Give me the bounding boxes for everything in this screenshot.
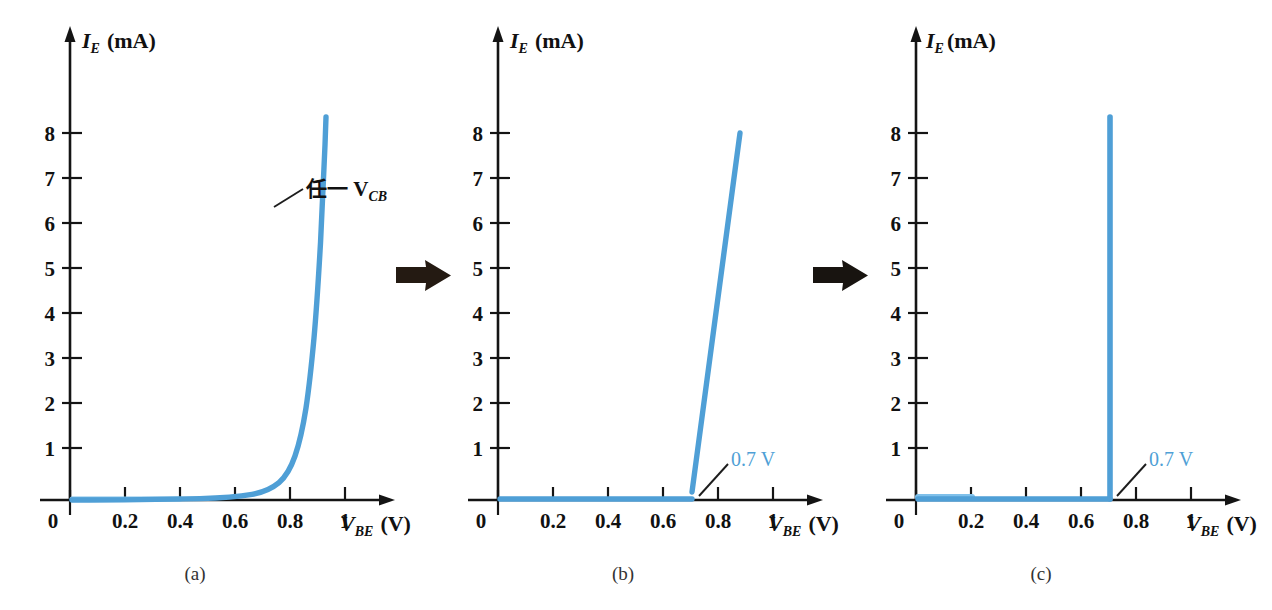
panel-caption-c: (c) xyxy=(1011,563,1071,585)
y-tick-labels-c: 1 2 3 4 5 6 7 8 xyxy=(891,122,902,461)
y-tick-label: 5 xyxy=(891,257,902,281)
svg-text:IE(mA): IE(mA) xyxy=(925,28,996,56)
x-tick-label: 0.6 xyxy=(222,509,248,533)
y-tick-label: 5 xyxy=(473,257,484,281)
y-axis-subscript: E xyxy=(934,41,944,56)
y-tick-label: 7 xyxy=(45,167,56,191)
x-tick-labels-b: 0 0.2 0.4 0.6 0.8 1 xyxy=(476,509,779,533)
x-axis-title-c: VBE(V) xyxy=(1186,511,1257,539)
y-tick-label: 6 xyxy=(45,212,56,236)
annotation-text: 0.7 V xyxy=(731,448,776,470)
annotation-any-vcb-a: 任一 VCB xyxy=(274,177,387,207)
chart-panel-a: 1 2 3 4 5 6 7 8 0 0.2 0.4 xyxy=(0,0,420,610)
x-axis-unit: (V) xyxy=(1226,511,1257,536)
figure-root: 1 2 3 4 5 6 7 8 0 0.2 0.4 xyxy=(0,0,1272,610)
y-tick-label: 8 xyxy=(891,122,902,146)
x-tick-label: 0.8 xyxy=(1123,509,1149,533)
svg-text:IE(mA): IE(mA) xyxy=(81,28,156,56)
y-ticks-a xyxy=(62,133,82,448)
x-tick-label: 0.2 xyxy=(112,509,138,533)
y-ticks-c xyxy=(908,133,928,448)
annotation-text: 任一 V xyxy=(305,177,368,201)
y-tick-label: 4 xyxy=(473,302,484,326)
y-tick-labels-b: 1 2 3 4 5 6 7 8 xyxy=(473,122,484,461)
y-axis-c xyxy=(911,26,922,500)
y-axis-title-c: IE(mA) xyxy=(925,28,996,56)
x-tick-label: 0.4 xyxy=(595,509,622,533)
svg-text:VBE(V): VBE(V) xyxy=(768,511,839,539)
x-tick-label: 0.8 xyxy=(277,509,303,533)
y-axis-subscript: E xyxy=(518,41,528,56)
flow-arrow-b-to-c-icon xyxy=(813,258,869,294)
y-tick-label: 5 xyxy=(45,257,56,281)
y-tick-label: 1 xyxy=(891,437,902,461)
y-tick-label: 1 xyxy=(45,437,56,461)
x-tick-label: 0 xyxy=(48,509,59,533)
chart-panel-c: 1 2 3 4 5 6 7 8 0 0.2 0.4 0.6 xyxy=(846,0,1266,610)
y-tick-label: 8 xyxy=(473,122,484,146)
annotation-text: 0.7 V xyxy=(1149,448,1194,470)
x-axis-title-a: VBE(V) xyxy=(340,511,411,539)
x-tick-labels-a: 0 0.2 0.4 0.6 0.8 1 xyxy=(48,509,351,533)
y-tick-label: 3 xyxy=(45,347,56,371)
y-tick-label: 4 xyxy=(45,302,56,326)
x-tick-label: 0.2 xyxy=(540,509,566,533)
y-tick-label: 2 xyxy=(473,392,484,416)
y-tick-label: 4 xyxy=(891,302,902,326)
y-tick-label: 6 xyxy=(891,212,902,236)
svg-text:VBE(V): VBE(V) xyxy=(340,511,411,539)
y-tick-label: 3 xyxy=(891,347,902,371)
annotation-0p7v-b: 0.7 V xyxy=(699,448,776,496)
y-tick-label: 2 xyxy=(45,392,56,416)
y-tick-label: 7 xyxy=(891,167,902,191)
panel-caption-a: (a) xyxy=(165,563,225,585)
curve-a xyxy=(72,117,326,500)
y-tick-label: 3 xyxy=(473,347,484,371)
x-tick-label: 0.4 xyxy=(1013,509,1040,533)
x-axis-unit: (V) xyxy=(808,511,839,536)
x-tick-label: 0.4 xyxy=(167,509,194,533)
x-tick-label: 0.6 xyxy=(650,509,676,533)
panel-caption-b: (b) xyxy=(593,563,653,585)
chart-panel-b: 1 2 3 4 5 6 7 8 0 0.2 0.4 0.6 xyxy=(428,0,848,610)
y-tick-labels-a: 1 2 3 4 5 6 7 8 xyxy=(45,122,56,461)
y-axis-title-b: IE(mA) xyxy=(509,28,584,56)
y-axis-unit: (mA) xyxy=(107,28,156,53)
y-axis-subscript: E xyxy=(90,41,100,56)
y-axis-b xyxy=(493,26,504,500)
x-tick-label: 0.6 xyxy=(1068,509,1094,533)
y-axis-unit: (mA) xyxy=(947,28,996,53)
annotation-0p7v-c: 0.7 V xyxy=(1117,448,1194,496)
y-tick-label: 6 xyxy=(473,212,484,236)
svg-text:任一 VCB: 任一 VCB xyxy=(305,177,387,204)
curve-c xyxy=(918,117,1110,499)
x-tick-label: 0 xyxy=(894,509,905,533)
x-axis-title-b: VBE(V) xyxy=(768,511,839,539)
y-tick-label: 2 xyxy=(891,392,902,416)
x-axis-subscript: BE xyxy=(782,524,802,539)
flow-arrow-a-to-b-icon xyxy=(396,258,452,294)
annotation-subscript: CB xyxy=(368,189,387,204)
svg-text:VBE(V): VBE(V) xyxy=(1186,511,1257,539)
svg-text:IE(mA): IE(mA) xyxy=(509,28,584,56)
y-axis-title-a: IE(mA) xyxy=(81,28,156,56)
x-axis-subscript: BE xyxy=(1200,524,1220,539)
y-axis-a xyxy=(65,26,76,500)
y-tick-label: 1 xyxy=(473,437,484,461)
y-tick-label: 8 xyxy=(45,122,56,146)
x-tick-label: 0.2 xyxy=(958,509,984,533)
y-ticks-b xyxy=(490,133,510,448)
x-axis-subscript: BE xyxy=(354,524,374,539)
x-tick-labels-c: 0 0.2 0.4 0.6 0.8 1 xyxy=(894,509,1197,533)
y-axis-unit: (mA) xyxy=(535,28,584,53)
x-axis-unit: (V) xyxy=(380,511,411,536)
x-tick-label: 0.8 xyxy=(705,509,731,533)
y-tick-label: 7 xyxy=(473,167,484,191)
x-tick-label: 0 xyxy=(476,509,487,533)
curve-b xyxy=(500,133,740,499)
